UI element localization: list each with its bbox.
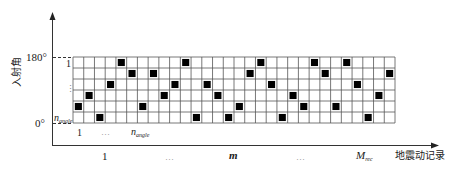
filled-cell — [161, 92, 168, 99]
filled-cell — [365, 114, 372, 121]
filled-cell — [322, 70, 329, 77]
filled-cell — [193, 114, 200, 121]
filled-cell — [300, 103, 307, 110]
filled-cell — [236, 103, 243, 110]
filled-cell — [343, 59, 350, 66]
filled-cell — [107, 81, 114, 88]
grid-col-label-last: nangle — [131, 126, 149, 141]
filled-cell — [311, 59, 318, 66]
filled-cell — [214, 92, 221, 99]
grid-col-label-first: 1 — [77, 127, 82, 138]
angle-record-grid — [73, 57, 395, 123]
filled-cell — [75, 103, 82, 110]
filled-cell — [182, 59, 189, 66]
x-tick-ellipsis-1: … — [165, 152, 174, 163]
grid-row-label-last: nangle — [54, 112, 72, 127]
filled-cell — [171, 81, 178, 88]
grid-col-label-last-sub: angle — [136, 132, 149, 138]
filled-cell — [225, 114, 232, 121]
filled-cell — [247, 70, 254, 77]
filled-cell — [96, 114, 103, 121]
grid-row-label-last-sub: angle — [59, 118, 72, 124]
filled-cell — [332, 103, 339, 110]
grid-row-label-ellipsis: ⋮ — [66, 84, 75, 95]
x-axis-arrow-icon — [431, 143, 439, 149]
x-axis-title: 地震动记录 — [395, 150, 445, 161]
filled-cell — [257, 59, 264, 66]
y-axis-arrow-icon — [50, 12, 56, 20]
filled-cell — [289, 92, 296, 99]
filled-cell — [204, 81, 211, 88]
filled-cell — [386, 70, 393, 77]
y-axis-top-label: 180° — [26, 52, 47, 63]
x-tick-1: 1 — [102, 151, 108, 162]
x-tick-ellipsis-2: … — [296, 152, 305, 163]
grid-row-label-first: 1 — [66, 58, 71, 69]
x-tick-m-rec: Mrec — [356, 150, 373, 165]
grid-col-label-ellipsis: … — [101, 127, 110, 138]
filled-cell — [354, 81, 361, 88]
x-tick-m-rec-sub: rec — [365, 156, 372, 162]
filled-cell — [268, 81, 275, 88]
filled-cell — [375, 92, 382, 99]
filled-cell — [150, 70, 157, 77]
y-axis-bottom-label: 0° — [35, 118, 45, 129]
filled-cell — [139, 103, 146, 110]
x-tick-m: m — [229, 150, 238, 161]
x-tick-m-rec-main: M — [356, 149, 365, 161]
y-axis-title: 入射角 — [11, 54, 22, 90]
filled-cell — [86, 92, 93, 99]
filled-cell — [279, 114, 286, 121]
filled-cell — [118, 59, 125, 66]
filled-cell — [128, 70, 135, 77]
